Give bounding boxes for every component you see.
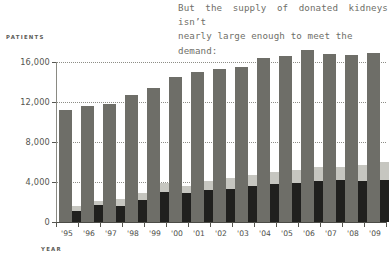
deceased-donor-segment — [270, 184, 279, 222]
x-tick-label-98: '98 — [122, 229, 144, 238]
transplant-stacked-bar — [226, 178, 235, 222]
transplant-stacked-bar — [292, 170, 301, 222]
x-tick-mark — [232, 222, 233, 227]
waiting-list-bar — [279, 56, 292, 222]
transplant-stacked-bar — [358, 165, 367, 222]
deceased-donor-segment — [248, 186, 257, 222]
y-axis-title: PATIENTS — [6, 34, 45, 40]
x-tick-label-04: '04 — [254, 229, 276, 238]
deceased-donor-segment — [226, 189, 235, 222]
bar-group — [367, 46, 389, 222]
waiting-list-bar — [257, 58, 270, 222]
x-tick-label-05: '05 — [276, 229, 298, 238]
waiting-list-bar — [323, 54, 336, 222]
deceased-donor-segment — [72, 211, 81, 222]
living-donor-segment — [182, 186, 191, 193]
deceased-donor-segment — [292, 183, 301, 222]
waiting-list-bar — [191, 72, 204, 222]
x-tick-mark — [78, 222, 79, 227]
x-tick-label-09: '09 — [364, 229, 386, 238]
x-tick-mark — [320, 222, 321, 227]
living-donor-segment — [380, 162, 389, 180]
bar-group — [301, 46, 323, 222]
transplant-stacked-bar — [182, 186, 191, 222]
x-tick-label-08: '08 — [342, 229, 364, 238]
living-donor-segment — [138, 193, 147, 200]
bar-group — [213, 46, 235, 222]
x-tick-mark — [210, 222, 211, 227]
x-tick-label-95: '95 — [56, 229, 78, 238]
deceased-donor-segment — [380, 180, 389, 222]
y-tick-label-16000: 16,000 — [6, 57, 50, 67]
living-donor-segment — [72, 206, 81, 211]
living-donor-segment — [314, 167, 323, 181]
x-tick-label-97: '97 — [100, 229, 122, 238]
waiting-list-bar — [59, 110, 72, 222]
y-tick-label-0: 0 — [6, 217, 50, 227]
living-donor-segment — [94, 201, 103, 205]
x-tick-label-02: '02 — [210, 229, 232, 238]
waiting-list-bar — [169, 77, 182, 222]
deceased-donor-segment — [138, 200, 147, 222]
x-axis-title: YEAR — [41, 246, 62, 252]
x-tick-mark — [298, 222, 299, 227]
headline-line-1: But the supply of donated kidneys isn’t — [178, 1, 388, 29]
bar-group — [59, 46, 81, 222]
x-tick-mark — [144, 222, 145, 227]
living-donor-segment — [160, 183, 169, 192]
transplant-stacked-bar — [336, 167, 345, 222]
transplant-stacked-bar — [138, 193, 147, 222]
x-tick-label-03: '03 — [232, 229, 254, 238]
waiting-list-bar — [147, 88, 160, 222]
transplant-stacked-bar — [314, 167, 323, 222]
y-tick-label-4000: 4,000 — [6, 177, 50, 187]
bar-group — [323, 46, 345, 222]
deceased-donor-segment — [358, 181, 367, 222]
living-donor-segment — [336, 167, 345, 180]
deceased-donor-segment — [336, 180, 345, 222]
x-tick-label-96: '96 — [78, 229, 100, 238]
transplant-stacked-bar — [94, 201, 103, 222]
y-tick-label-8000: 8,000 — [6, 137, 50, 147]
bar-group — [169, 46, 191, 222]
bar-group — [103, 46, 125, 222]
deceased-donor-segment — [314, 181, 323, 222]
x-tick-mark — [386, 222, 387, 227]
transplant-stacked-bar — [160, 183, 169, 222]
living-donor-segment — [292, 170, 301, 183]
x-tick-mark — [342, 222, 343, 227]
plot-area: 04,0008,00012,00016,000 '95'96'97'98'99'… — [56, 46, 386, 222]
x-tick-mark — [188, 222, 189, 227]
x-tick-label-99: '99 — [144, 229, 166, 238]
deceased-donor-segment — [204, 190, 213, 222]
living-donor-segment — [270, 172, 279, 184]
transplant-stacked-bar — [380, 162, 389, 222]
x-tick-label-00: '00 — [166, 229, 188, 238]
bar-group — [257, 46, 279, 222]
bar-group — [345, 46, 367, 222]
waiting-list-bar — [125, 95, 138, 222]
x-tick-mark — [56, 222, 57, 227]
transplant-stacked-bar — [248, 175, 257, 222]
living-donor-segment — [204, 181, 213, 190]
x-tick-label-06: '06 — [298, 229, 320, 238]
waiting-list-bar — [213, 69, 226, 222]
bar-group — [279, 46, 301, 222]
waiting-list-bar — [81, 106, 94, 222]
waiting-list-bar — [235, 67, 248, 222]
transplant-stacked-bar — [72, 206, 81, 222]
deceased-donor-segment — [182, 193, 191, 222]
bar-group — [235, 46, 257, 222]
living-donor-segment — [116, 199, 125, 206]
waiting-list-bar — [367, 53, 380, 222]
x-axis-line — [56, 222, 386, 223]
waiting-list-bar — [103, 104, 116, 222]
x-tick-label-07: '07 — [320, 229, 342, 238]
bar-group — [191, 46, 213, 222]
waiting-list-bar — [345, 55, 358, 222]
x-tick-mark — [100, 222, 101, 227]
x-tick-label-01: '01 — [188, 229, 210, 238]
y-axis-line — [56, 62, 57, 222]
x-tick-mark — [254, 222, 255, 227]
x-tick-mark — [166, 222, 167, 227]
